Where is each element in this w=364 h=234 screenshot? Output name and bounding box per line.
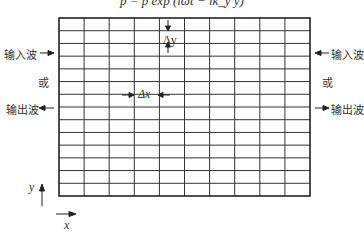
y-axis-label: y [29,180,34,195]
right-input-arrow [315,51,329,56]
left-input-wave-label: 输入波 [4,46,37,62]
right-output-arrow [315,106,329,111]
right-output-wave-label: 输出波 [331,101,364,117]
left-output-arrow [39,106,54,111]
left-input-arrow [40,51,54,56]
finite-difference-grid [59,18,310,196]
y-axis-arrow [40,184,45,206]
x-axis-arrow [56,212,76,217]
delta-x-label: Δx [138,87,150,102]
delta-y-label: Δy [163,33,177,48]
right-or-label: 或 [322,74,333,90]
right-input-wave-label: 输入波 [331,46,364,62]
left-or-label: 或 [38,74,49,90]
left-output-wave-label: 输出波 [6,101,39,117]
x-axis-label: x [64,218,69,233]
grid-diagram [0,0,364,234]
